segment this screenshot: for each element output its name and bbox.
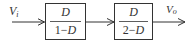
output-subscript: o — [173, 7, 177, 16]
transfer-block-2: D 2−D — [115, 4, 153, 40]
block-1-denominator-var: D — [67, 23, 77, 37]
block-diagram: Vi D 1−D D 2−D Vo — [0, 0, 196, 43]
output-label: Vo — [166, 3, 177, 16]
transfer-block-1: D 1−D — [46, 4, 86, 40]
block-2-denominator: 2−D — [123, 23, 145, 37]
input-subscript: i — [16, 10, 18, 19]
input-label: Vi — [9, 4, 19, 19]
block-2-denominator-var: D — [135, 23, 145, 37]
block-2-denominator-prefix: 2− — [123, 23, 136, 37]
block-1-denominator-prefix: 1− — [55, 23, 68, 37]
block-2-numerator: D — [128, 5, 138, 19]
block-1-denominator: 1−D — [55, 23, 77, 37]
block-1-numerator: D — [60, 5, 70, 19]
